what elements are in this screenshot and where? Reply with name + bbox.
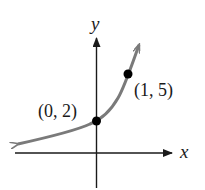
y-axis-label: y — [89, 13, 100, 34]
point-1-5-label: (1, 5) — [134, 80, 173, 101]
point-1-5 — [124, 70, 133, 79]
exponential-graph: y x (0, 2) (1, 5) — [0, 0, 205, 190]
point-0-2 — [92, 117, 101, 126]
point-0-2-label: (0, 2) — [38, 101, 77, 122]
x-axis-label: x — [179, 141, 189, 162]
exponential-curve — [18, 45, 139, 144]
